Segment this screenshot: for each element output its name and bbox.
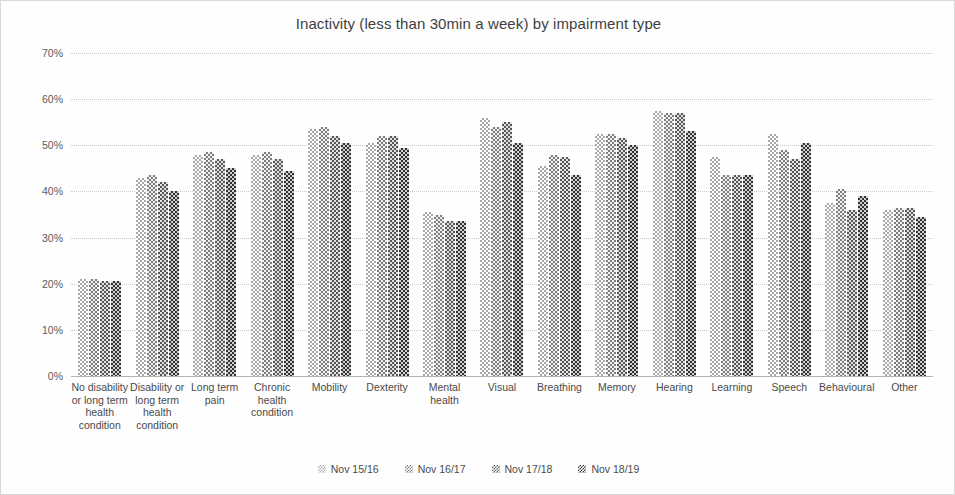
bar-group	[301, 53, 358, 376]
bar[interactable]	[595, 134, 605, 376]
bar[interactable]	[158, 182, 168, 376]
bar[interactable]	[100, 281, 110, 376]
bar[interactable]	[571, 175, 581, 376]
x-axis-category-labels: No disability or long term health condit…	[71, 381, 933, 453]
y-axis-tick-label: 60%	[19, 93, 63, 105]
bar-group	[243, 53, 300, 376]
bar[interactable]	[456, 221, 466, 376]
bar[interactable]	[606, 134, 616, 376]
bar[interactable]	[628, 145, 638, 376]
bar[interactable]	[779, 150, 789, 376]
y-axis-tick-label: 20%	[19, 278, 63, 290]
bar[interactable]	[502, 122, 512, 376]
x-axis-category-label: Learning	[703, 381, 760, 394]
bar[interactable]	[251, 155, 261, 376]
bar-group	[186, 53, 243, 376]
bar[interactable]	[664, 113, 674, 376]
bar-group	[473, 53, 530, 376]
bar[interactable]	[883, 210, 893, 376]
legend-item[interactable]: Nov 16/17	[405, 463, 466, 475]
bar-group	[71, 53, 128, 376]
bar[interactable]	[732, 175, 742, 376]
bar[interactable]	[215, 159, 225, 376]
bar[interactable]	[916, 217, 926, 376]
x-axis-category-label: Mental health	[416, 381, 473, 406]
bar[interactable]	[377, 136, 387, 376]
bar[interactable]	[78, 279, 88, 376]
bar-group	[646, 53, 703, 376]
bar[interactable]	[790, 159, 800, 376]
y-axis-tick-label: 70%	[19, 47, 63, 59]
bar[interactable]	[434, 215, 444, 377]
bar-group	[531, 53, 588, 376]
legend-item[interactable]: Nov 18/19	[578, 463, 639, 475]
x-axis-category-label: Breathing	[531, 381, 588, 394]
x-axis-category-label: Dexterity	[358, 381, 415, 394]
bar[interactable]	[388, 136, 398, 376]
legend-swatch-icon	[318, 465, 326, 473]
bar[interactable]	[549, 155, 559, 376]
bar[interactable]	[445, 221, 455, 376]
y-axis-tick-label: 50%	[19, 139, 63, 151]
bar[interactable]	[710, 157, 720, 376]
legend-item[interactable]: Nov 15/16	[318, 463, 379, 475]
chart-legend: Nov 15/16Nov 16/17Nov 17/18Nov 18/19	[1, 463, 955, 475]
bar[interactable]	[617, 138, 627, 376]
legend-item[interactable]: Nov 17/18	[492, 463, 553, 475]
bar[interactable]	[423, 212, 433, 376]
bar[interactable]	[480, 118, 490, 376]
bar-group	[416, 53, 473, 376]
x-axis-category-label: Memory	[588, 381, 645, 394]
bar[interactable]	[273, 159, 283, 376]
bar[interactable]	[226, 168, 236, 376]
bar[interactable]	[560, 157, 570, 376]
bar[interactable]	[308, 129, 318, 376]
bar-group	[818, 53, 875, 376]
legend-label: Nov 18/19	[591, 463, 639, 475]
x-axis-category-label: Speech	[761, 381, 818, 394]
plot-area	[71, 53, 933, 376]
bar[interactable]	[847, 210, 857, 376]
bar[interactable]	[204, 152, 214, 376]
bar[interactable]	[675, 113, 685, 376]
bar[interactable]	[653, 111, 663, 376]
bar[interactable]	[341, 143, 351, 376]
bar[interactable]	[366, 143, 376, 376]
bar[interactable]	[136, 178, 146, 376]
x-axis-category-label: Behavioural	[818, 381, 875, 394]
bar-group	[588, 53, 645, 376]
bar-group	[358, 53, 415, 376]
bar[interactable]	[825, 203, 835, 376]
bar[interactable]	[801, 143, 811, 376]
bar[interactable]	[193, 155, 203, 376]
bar[interactable]	[768, 134, 778, 376]
bar[interactable]	[836, 189, 846, 376]
bar[interactable]	[894, 208, 904, 376]
bar[interactable]	[319, 127, 329, 376]
bar[interactable]	[538, 166, 548, 376]
bar[interactable]	[284, 171, 294, 376]
y-axis: 70%60%50%40%30%20%10%0%	[1, 53, 63, 376]
bar-group	[703, 53, 760, 376]
bar[interactable]	[330, 136, 340, 376]
bar[interactable]	[721, 175, 731, 376]
bar[interactable]	[905, 208, 915, 376]
bar[interactable]	[89, 279, 99, 376]
bar-group	[128, 53, 185, 376]
bar[interactable]	[858, 196, 868, 376]
bar[interactable]	[399, 148, 409, 376]
x-axis-category-label: Other	[876, 381, 933, 394]
y-axis-tick-label: 40%	[19, 185, 63, 197]
legend-label: Nov 15/16	[331, 463, 379, 475]
bar[interactable]	[743, 175, 753, 376]
x-axis-category-label: Hearing	[646, 381, 703, 394]
bar[interactable]	[147, 175, 157, 376]
legend-swatch-icon	[492, 465, 500, 473]
y-axis-tick-label: 0%	[19, 370, 63, 382]
bar[interactable]	[262, 152, 272, 376]
bar[interactable]	[111, 281, 121, 376]
bar[interactable]	[686, 131, 696, 376]
bar[interactable]	[491, 127, 501, 376]
bar[interactable]	[513, 143, 523, 376]
bar[interactable]	[169, 191, 179, 376]
